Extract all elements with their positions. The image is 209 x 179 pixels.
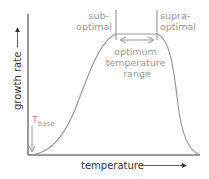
sub-optimal-label: sub- optimal: [76, 10, 112, 32]
x-axis-label: temperature: [81, 160, 144, 171]
optimum-range-label: optimum temperature range: [106, 46, 169, 79]
y-axis-label: growth rate: [12, 52, 23, 110]
growth-rate-diagram: sub- optimal supra- optimal optimum temp…: [0, 0, 209, 179]
supra-optimal-label: supra- optimal: [160, 10, 196, 32]
t-base-label: Tbase: [31, 114, 55, 128]
